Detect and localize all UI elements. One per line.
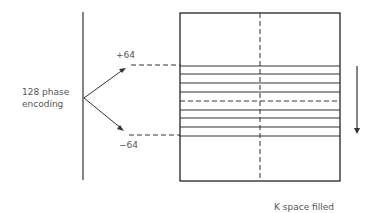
fill-direction-arrow-icon bbox=[354, 128, 360, 134]
arrow-down-line bbox=[84, 98, 122, 129]
bottom-marker-label: −64 bbox=[119, 140, 138, 151]
left-label-line2: encoding bbox=[22, 99, 63, 110]
left-label-line1: 128 phase bbox=[22, 87, 69, 98]
arrow-up-line bbox=[84, 69, 124, 98]
caption: K space filled bbox=[274, 202, 334, 213]
top-marker-label: +64 bbox=[116, 50, 135, 61]
